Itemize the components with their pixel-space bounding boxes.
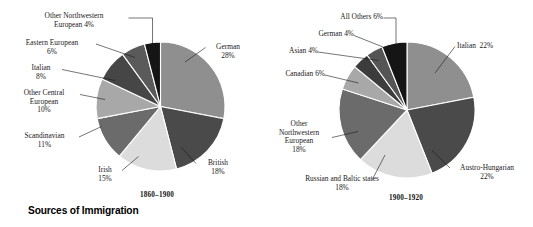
immigration-sources-figure: Other Northwestern European 4% Eastern E… [0,0,533,227]
leader-line-left-scand [79,127,102,138]
leader-line-left-othernw [129,18,153,46]
label-left-british: British 18% [198,159,238,176]
label-right-german: German 4% [294,30,354,39]
label-left-other-central-european: Other Central European 10% [8,89,80,115]
label-right-canadian: Canadian 6% [262,70,325,79]
label-left-eastern-european: Eastern European 6% [8,39,96,56]
label-right-asian: Asian 4% [275,47,318,56]
leader-line-right-german [354,36,383,48]
left-pie-chart [96,42,225,171]
left-chart-period: 1860–1900 [112,191,202,199]
label-left-irish: Irish 15% [88,166,122,183]
label-left-scandinavian: Scandinavian 11% [10,132,79,149]
figure-title: Sources of Immigration [28,205,138,216]
label-right-austro-hungarian: Austro-Hungarian 22% [444,164,530,181]
label-right-other-northwestern-european: Other Northwestern European 18% [266,120,332,154]
label-left-italian: Italian 8% [20,64,62,81]
label-right-russian-and-baltic-states: Russian and Baltic states 18% [289,175,395,192]
label-left-other-northwestern-european: Other Northwestern European 4% [20,12,128,29]
label-right-all-others: All Others 6% [313,13,383,22]
right-chart-period: 1900–1920 [361,194,451,202]
label-right-italian: Italian 22% [457,42,527,51]
label-left-german: German 28% [207,43,249,60]
leader-line-right-allothers [384,18,397,45]
right-pie-chart [339,42,475,178]
